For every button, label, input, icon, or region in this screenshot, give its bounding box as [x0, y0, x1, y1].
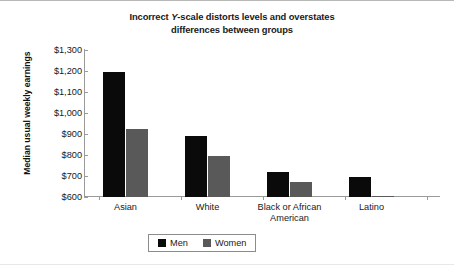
y-tick-label: $800	[24, 150, 82, 160]
y-tick-label: $1,300	[24, 45, 82, 55]
y-tick-mark	[84, 176, 88, 177]
chart-title: Incorrect Y-scale distorts levels and ov…	[62, 11, 402, 36]
chart-title-suffix: -scale distorts levels and overstates	[177, 11, 334, 22]
plot-area	[85, 50, 439, 197]
chart-title-prefix: Incorrect	[129, 11, 171, 22]
chart-legend: MenWomen	[148, 234, 256, 252]
y-tick-label: $1,000	[24, 108, 82, 118]
chart-figure: Incorrect Y-scale distorts levels and ov…	[0, 0, 454, 265]
bar-women[interactable]	[290, 182, 312, 197]
y-tick-label: $700	[24, 171, 82, 181]
y-axis-tick-labels: $1,300$1,200$1,100$1,000$900$800$700$600	[20, 50, 82, 197]
bar-men[interactable]	[349, 177, 371, 197]
y-tick-mark	[84, 197, 88, 198]
x-tick-mark	[427, 196, 428, 200]
legend-item-women[interactable]: Women	[203, 238, 247, 248]
bar-women[interactable]	[372, 196, 394, 197]
y-tick-mark	[84, 92, 88, 93]
legend-label: Men	[170, 238, 188, 248]
bar-group	[185, 50, 230, 197]
bar-women[interactable]	[126, 129, 148, 197]
bar-men[interactable]	[103, 72, 125, 197]
bar-group	[349, 50, 394, 197]
legend-item-men[interactable]: Men	[158, 238, 188, 248]
y-tick-label: $1,100	[24, 87, 82, 97]
category-label: Latino	[324, 202, 420, 213]
y-tick-label: $1,200	[24, 66, 82, 76]
x-tick-mark	[99, 196, 100, 200]
bar-group	[103, 50, 148, 197]
legend-label: Women	[215, 238, 247, 248]
y-tick-label: $600	[24, 192, 82, 202]
y-tick-mark	[84, 50, 88, 51]
y-tick-mark	[84, 155, 88, 156]
y-tick-mark	[84, 134, 88, 135]
chart-title-line2: differences between groups	[171, 24, 293, 35]
bar-women[interactable]	[208, 156, 230, 197]
y-tick-label: $900	[24, 129, 82, 139]
x-tick-mark	[263, 196, 264, 200]
bar-men[interactable]	[185, 136, 207, 197]
legend-swatch-icon	[158, 239, 166, 247]
y-tick-mark	[84, 113, 88, 114]
bar-men[interactable]	[267, 172, 289, 197]
x-tick-mark	[181, 196, 182, 200]
x-tick-mark	[345, 196, 346, 200]
y-tick-mark	[84, 71, 88, 72]
legend-swatch-icon	[203, 239, 211, 247]
bar-group	[267, 50, 312, 197]
